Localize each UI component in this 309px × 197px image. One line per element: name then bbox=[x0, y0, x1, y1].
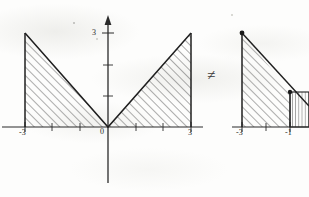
right-plot-shaded-triangle bbox=[242, 33, 290, 127]
left-plot-xlabel-pos-three: 3 bbox=[188, 129, 192, 137]
right-plot-xlabel-neg-three: -3 bbox=[236, 129, 243, 137]
right-plot: -3 -1 bbox=[228, 0, 309, 197]
left-plot-xlabel-zero: 0 bbox=[100, 128, 104, 136]
endpoint-dot-neg-three bbox=[240, 31, 245, 36]
scan-speck bbox=[96, 38, 98, 40]
endpoint-dot-neg-one bbox=[288, 90, 292, 94]
scan-speck bbox=[231, 14, 233, 16]
left-plot-xlabel-neg-three: -3 bbox=[19, 129, 26, 137]
scan-speck bbox=[73, 22, 75, 24]
figure-canvas: -3 0 3 3 ≠ bbox=[0, 0, 309, 197]
left-plot: -3 0 3 3 bbox=[0, 0, 205, 197]
right-plot-svg bbox=[228, 0, 309, 197]
right-plot-shaded-strip bbox=[290, 92, 309, 127]
left-plot-svg bbox=[0, 0, 205, 197]
y-axis-arrow-icon bbox=[105, 15, 112, 25]
not-equal-symbol: ≠ bbox=[207, 68, 215, 83]
left-plot-ylabel-three: 3 bbox=[92, 29, 96, 37]
right-plot-xlabel-neg-one: -1 bbox=[285, 129, 292, 137]
